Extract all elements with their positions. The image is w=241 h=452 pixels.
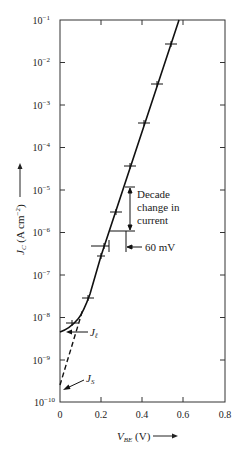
svg-text:10−4: 10−4 [33,141,51,153]
svg-text:change in: change in [137,201,180,213]
data-markers [66,41,177,326]
svg-text:0.6: 0.6 [177,409,190,420]
y-axis-title: JC (A cm−2) [14,163,28,255]
svg-text:10−8: 10−8 [33,311,51,323]
svg-text:60 mV: 60 mV [145,241,175,253]
svg-text:Jℓ: Jℓ [90,326,98,340]
svg-text:current: current [137,214,168,226]
jc-curve [60,20,179,332]
x-tick-labels: 0 0.2 0.4 0.6 0.8 [58,409,232,420]
svg-text:10−1: 10−1 [33,14,51,26]
svg-text:10−10: 10−10 [34,396,55,408]
svg-text:JC (A cm−2): JC (A cm−2) [14,204,28,255]
svg-text:10−7: 10−7 [33,269,51,281]
decade-text: Decade change in current 60 mV [137,188,180,253]
svg-text:10−2: 10−2 [33,56,51,68]
x-axis-title: VBE (V) [117,430,178,444]
svg-text:10−9: 10−9 [33,354,51,366]
svg-text:0.8: 0.8 [219,409,232,420]
svg-text:Decade: Decade [137,188,170,200]
semilog-chart: 10−1 10−2 10−3 10−4 10−5 10−6 10−7 10−8 … [0,0,241,452]
js-annotation: JS [63,372,95,390]
jl-annotation: Jℓ [66,326,98,340]
svg-text:0.4: 0.4 [136,409,149,420]
svg-text:0: 0 [58,409,63,420]
svg-text:10−3: 10−3 [33,99,51,111]
svg-text:10−6: 10−6 [33,226,51,238]
svg-text:VBE (V): VBE (V) [117,430,151,444]
svg-text:0.2: 0.2 [95,409,108,420]
y-tick-labels: 10−1 10−2 10−3 10−4 10−5 10−6 10−7 10−8 … [33,14,56,408]
svg-text:JS: JS [86,372,95,386]
svg-text:10−5: 10−5 [33,184,51,196]
